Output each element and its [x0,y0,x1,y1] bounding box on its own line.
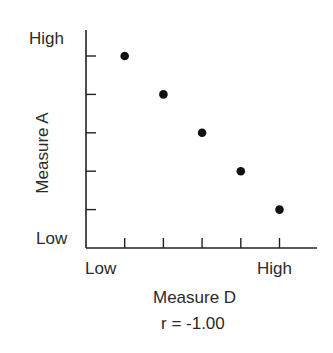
correlation-annotation: r = -1.00 [161,314,225,334]
x-low-label: Low [85,259,116,279]
x-high-label: High [257,259,292,279]
y-low-label: Low [36,229,67,249]
data-point [237,167,246,176]
y-high-label: High [29,29,64,49]
data-point [275,205,284,214]
data-point [198,129,207,138]
data-point [159,90,168,99]
x-axis-title: Measure D [153,288,236,308]
data-points [120,52,283,214]
y-axis-title: Measure A [33,103,53,203]
x-ticks [125,238,280,248]
y-ticks [86,56,96,210]
data-point [120,52,129,61]
